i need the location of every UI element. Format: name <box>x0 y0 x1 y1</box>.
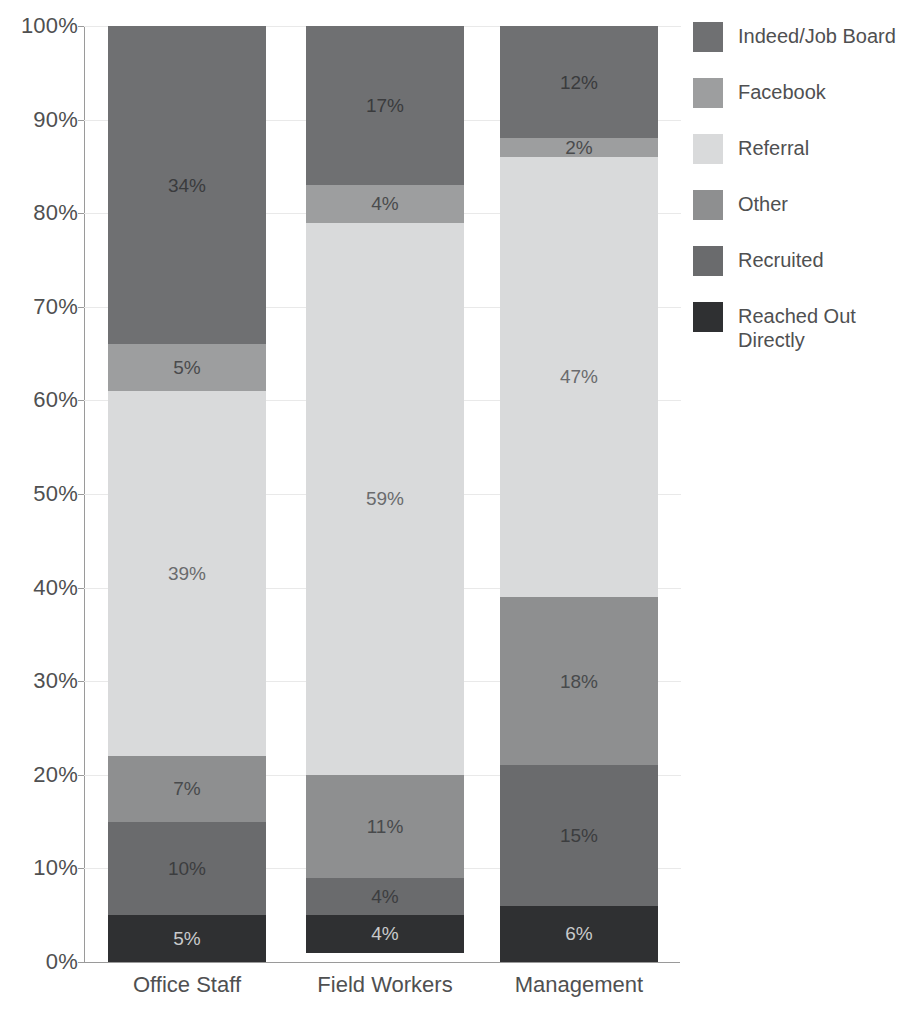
bar-segment-value-label: 17% <box>366 96 404 115</box>
bar-segment-value-label: 12% <box>560 73 598 92</box>
bar-segment-office-staff-recruited[interactable]: 10% <box>108 822 266 916</box>
y-tick-label-10: 10% <box>33 857 78 879</box>
y-tickmark <box>78 868 84 869</box>
bar-management[interactable]: 12%2%47%18%15%6% <box>500 26 658 962</box>
y-tickmark <box>78 120 84 121</box>
bar-segment-value-label: 2% <box>565 138 592 157</box>
bar-segment-value-label: 18% <box>560 672 598 691</box>
bar-field-workers[interactable]: 17%4%59%11%4%4% <box>306 26 464 962</box>
bar-segment-value-label: 59% <box>366 489 404 508</box>
bar-segment-field-workers-indeed-job-board[interactable]: 17% <box>306 26 464 185</box>
legend: Indeed/Job BoardFacebookReferralOtherRec… <box>693 22 917 378</box>
bar-segment-value-label: 34% <box>168 176 206 195</box>
y-tickmark <box>78 307 84 308</box>
y-tick-label-70: 70% <box>33 296 78 318</box>
bar-segment-office-staff-reached-out-directly[interactable]: 5% <box>108 915 266 962</box>
bar-segment-value-label: 39% <box>168 564 206 583</box>
y-tickmark <box>78 962 84 963</box>
legend-item-facebook[interactable]: Facebook <box>693 78 917 108</box>
y-tickmark <box>78 588 84 589</box>
y-tick-label-100: 100% <box>21 15 78 37</box>
legend-swatch-icon <box>693 302 723 332</box>
legend-label: Indeed/Job Board <box>738 22 896 48</box>
bar-segment-value-label: 4% <box>371 924 398 943</box>
chart-root: 100% 90% 80% 70% 60% 50% 40% 30% 20% 10%… <box>0 0 919 1032</box>
legend-label: Reached Out Directly <box>738 302 856 352</box>
legend-swatch-icon <box>693 78 723 108</box>
bar-segment-value-label: 4% <box>371 887 398 906</box>
y-tickmark <box>78 494 84 495</box>
y-tickmark <box>78 400 84 401</box>
bar-segment-management-reached-out-directly[interactable]: 6% <box>500 906 658 962</box>
bar-segment-office-staff-other[interactable]: 7% <box>108 756 266 822</box>
legend-swatch-icon <box>693 134 723 164</box>
bar-segment-field-workers-facebook[interactable]: 4% <box>306 185 464 222</box>
bar-segment-office-staff-indeed-job-board[interactable]: 34% <box>108 26 266 344</box>
bar-segment-management-referral[interactable]: 47% <box>500 157 658 597</box>
legend-item-other[interactable]: Other <box>693 190 917 220</box>
bar-office-staff[interactable]: 34%5%39%7%10%5% <box>108 26 266 962</box>
bar-segment-management-facebook[interactable]: 2% <box>500 138 658 157</box>
legend-item-reached-out-directly[interactable]: Reached Out Directly <box>693 302 917 352</box>
y-tick-label-90: 90% <box>33 109 78 131</box>
y-tick-label-60: 60% <box>33 389 78 411</box>
x-axis-label-field-workers: Field Workers <box>306 972 464 998</box>
legend-label: Facebook <box>738 78 826 104</box>
bar-segment-value-label: 5% <box>173 929 200 948</box>
bar-segment-value-label: 11% <box>367 817 404 836</box>
bar-segment-value-label: 10% <box>168 859 206 878</box>
bar-segment-field-workers-reached-out-directly[interactable]: 4% <box>306 915 464 952</box>
legend-label: Other <box>738 190 788 216</box>
y-axis-ticks: 100% 90% 80% 70% 60% 50% 40% 30% 20% 10%… <box>0 0 78 1032</box>
y-tick-label-20: 20% <box>33 764 78 786</box>
x-axis-label-management: Management <box>500 972 658 998</box>
bar-segment-value-label: 15% <box>560 826 598 845</box>
y-tickmark <box>78 26 84 27</box>
y-tick-label-0: 0% <box>46 951 78 973</box>
legend-label: Referral <box>738 134 809 160</box>
x-axis-label-office-staff: Office Staff <box>108 972 266 998</box>
bar-segment-value-label: 5% <box>173 358 200 377</box>
legend-item-recruited[interactable]: Recruited <box>693 246 917 276</box>
y-tick-label-80: 80% <box>33 202 78 224</box>
legend-swatch-icon <box>693 246 723 276</box>
axis-baseline <box>84 962 680 963</box>
bar-segment-field-workers-other[interactable]: 11% <box>306 775 464 878</box>
bar-segment-management-recruited[interactable]: 15% <box>500 765 658 905</box>
bar-segment-office-staff-facebook[interactable]: 5% <box>108 344 266 391</box>
plot-area: 34%5%39%7%10%5%17%4%59%11%4%4%12%2%47%18… <box>84 26 680 962</box>
y-tickmark <box>78 681 84 682</box>
bar-segment-field-workers-referral[interactable]: 59% <box>306 223 464 775</box>
y-tickmark <box>78 775 84 776</box>
y-tick-label-40: 40% <box>33 577 78 599</box>
legend-label: Recruited <box>738 246 824 272</box>
legend-swatch-icon <box>693 22 723 52</box>
bar-segment-value-label: 4% <box>371 194 398 213</box>
bar-segment-value-label: 47% <box>560 367 598 386</box>
y-tick-label-50: 50% <box>33 483 78 505</box>
y-tick-label-30: 30% <box>33 670 78 692</box>
bar-segment-value-label: 7% <box>173 779 200 798</box>
legend-item-referral[interactable]: Referral <box>693 134 917 164</box>
legend-item-indeed-job-board[interactable]: Indeed/Job Board <box>693 22 917 52</box>
legend-swatch-icon <box>693 190 723 220</box>
bar-group: 34%5%39%7%10%5%17%4%59%11%4%4%12%2%47%18… <box>84 26 680 962</box>
bar-segment-value-label: 6% <box>565 924 592 943</box>
bar-segment-office-staff-referral[interactable]: 39% <box>108 391 266 756</box>
bar-segment-management-other[interactable]: 18% <box>500 597 658 765</box>
bar-segment-field-workers-recruited[interactable]: 4% <box>306 878 464 915</box>
y-tickmark <box>78 213 84 214</box>
bar-segment-management-indeed-job-board[interactable]: 12% <box>500 26 658 138</box>
